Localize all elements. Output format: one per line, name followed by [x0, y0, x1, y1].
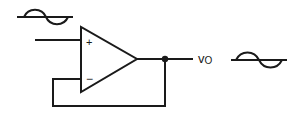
input-sine-wave-icon — [17, 10, 73, 24]
output-sine-wave-icon — [231, 53, 287, 68]
non-inverting-label: + — [86, 36, 92, 48]
inverting-label: − — [86, 72, 93, 86]
feedback-wire — [53, 59, 165, 106]
junction-dot — [162, 56, 168, 62]
op-amp-circuit-diagram: + − vO — [0, 0, 303, 116]
output-label: vO — [198, 51, 213, 66]
